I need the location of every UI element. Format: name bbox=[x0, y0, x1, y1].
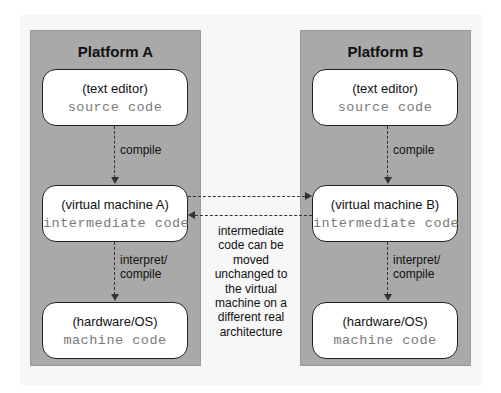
compile-edge-label: compile bbox=[120, 143, 161, 157]
box-label: (text editor) bbox=[43, 81, 187, 96]
vm-b-to-vm-a-line bbox=[195, 215, 312, 216]
box-label: (virtual machine A) bbox=[43, 197, 187, 212]
compile-edge-label: compile bbox=[393, 143, 434, 157]
box-label: (virtual machine B) bbox=[313, 197, 457, 212]
box-code: machine code bbox=[43, 333, 187, 348]
arrow-left-icon bbox=[188, 211, 195, 219]
platform-b-source-code-box: (text editor) source code bbox=[312, 69, 458, 126]
box-code: source code bbox=[43, 100, 187, 115]
arrow-down-icon bbox=[384, 177, 392, 184]
platform-b-title: Platform B bbox=[301, 43, 470, 60]
platform-b-panel: Platform B (text editor) source code com… bbox=[300, 30, 471, 366]
platform-b-machine-code-box: (hardware/OS) machine code bbox=[312, 302, 458, 359]
box-label: (text editor) bbox=[313, 81, 457, 96]
platform-a-source-code-box: (text editor) source code bbox=[42, 69, 188, 126]
edge-label-line: interpret/ bbox=[120, 253, 167, 267]
interpret-edge-label: interpret/ compile bbox=[120, 253, 167, 281]
arrow-right-icon bbox=[305, 192, 312, 200]
box-label: (hardware/OS) bbox=[43, 314, 187, 329]
platform-a-panel: Platform A (text editor) source code com… bbox=[30, 30, 201, 366]
portability-note: intermediate code can be moved unchanged… bbox=[205, 224, 297, 339]
arrow-down-icon bbox=[384, 294, 392, 301]
box-code: intermediate code bbox=[43, 216, 187, 231]
interpret-edge-line bbox=[114, 242, 115, 295]
vm-a-to-vm-b-line bbox=[188, 196, 305, 197]
edge-label-line: interpret/ bbox=[393, 253, 440, 267]
platform-a-title: Platform A bbox=[31, 43, 200, 60]
platform-b-virtual-machine-box: (virtual machine B) intermediate code bbox=[312, 185, 458, 242]
box-code: intermediate code bbox=[313, 216, 457, 231]
box-label: (hardware/OS) bbox=[313, 314, 457, 329]
arrow-down-icon bbox=[111, 177, 119, 184]
platform-a-machine-code-box: (hardware/OS) machine code bbox=[42, 302, 188, 359]
arrow-down-icon bbox=[111, 294, 119, 301]
compile-edge-line bbox=[387, 126, 388, 178]
edge-label-line: compile bbox=[120, 267, 167, 281]
interpret-edge-line bbox=[387, 242, 388, 295]
box-code: source code bbox=[313, 100, 457, 115]
interpret-edge-label: interpret/ compile bbox=[393, 253, 440, 281]
edge-label-line: compile bbox=[393, 267, 440, 281]
box-code: machine code bbox=[313, 333, 457, 348]
compile-edge-line bbox=[114, 126, 115, 178]
platform-a-virtual-machine-box: (virtual machine A) intermediate code bbox=[42, 185, 188, 242]
